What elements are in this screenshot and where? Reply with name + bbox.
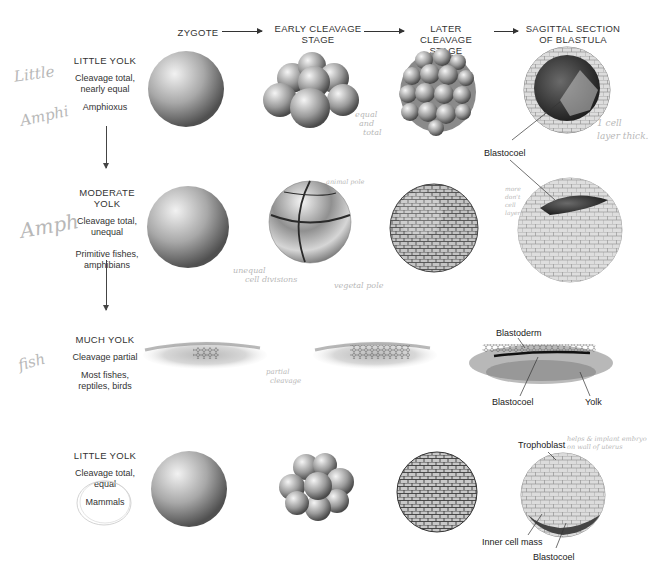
zygote-mammal-sphere [151,451,227,527]
later-cleavage-morula [399,48,476,136]
zygote-sphere [148,51,224,127]
label-blastocoel-row3: Blastocoel [492,397,534,407]
handwritten-equal-and-total: equal and total [355,110,382,137]
blastula-section-2 [518,178,622,282]
handwritten-margin-row3: fish [17,355,46,371]
early-cleavage-8cell [263,52,359,128]
handwritten-vegetal-pole: vegetal pole [334,281,383,290]
label-blastocoel-row4: Blastocoel [533,552,575,562]
handwritten-partial-cleavage: partial cleavage [266,368,301,386]
zygote-much-yolk-disc [143,341,267,369]
early-cleavage-disc [313,341,437,369]
handwritten-helps-implant: helps & implant embryo on wall of uterus [567,435,647,451]
handwritten-unequal-divisions: unequal cell divisions [233,266,297,284]
handwritten-one-cell-layer: 1 cell layer thick. [597,117,648,143]
handwritten-more-dont-cell: more don't cell layer [505,185,521,217]
early-cleavage-4cell [269,181,351,263]
later-cleavage-moderate [390,184,478,272]
early-cleavage-mammal [279,453,354,521]
label-yolk: Yolk [585,397,602,407]
later-cleavage-mammal [397,452,477,532]
handwritten-animal-pole: animal pole [326,178,364,187]
label-inner-cell-mass: Inner cell mass [482,537,543,547]
blastocyst-section [521,453,605,537]
blastoderm-section [469,344,613,384]
label-trophoblast: Trophoblast [518,440,565,450]
label-blastoderm: Blastoderm [496,328,542,338]
handwritten-margin-row1a: Little [14,67,55,82]
label-blastocoel-row1: Blastocoel [484,148,526,158]
handwritten-margin-row2: Amph [20,217,80,236]
zygote-moderate-sphere [147,186,229,268]
embryo-illustrations [0,0,666,580]
